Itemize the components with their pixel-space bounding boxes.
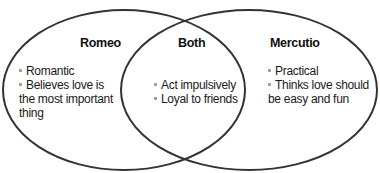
list-item: Thinks love should be easy and fun bbox=[268, 78, 369, 106]
mercutio-list: Practical Thinks love should be easy and… bbox=[268, 64, 369, 106]
list-item: Act impulsively bbox=[154, 78, 238, 92]
romeo-list: Romantic Believes love is the most impor… bbox=[19, 64, 113, 120]
list-item: Loyal to friends bbox=[154, 92, 238, 106]
bullet-icon bbox=[154, 83, 157, 86]
both-title: Both bbox=[178, 36, 205, 50]
bullet-icon bbox=[268, 83, 271, 86]
both-list: Act impulsively Loyal to friends bbox=[154, 78, 238, 106]
bullet-icon bbox=[19, 83, 22, 86]
list-item: Believes love is the most important thin… bbox=[19, 78, 113, 120]
list-item: Romantic bbox=[19, 64, 113, 78]
romeo-title: Romeo bbox=[80, 36, 121, 50]
bullet-icon bbox=[154, 97, 157, 100]
list-item: Practical bbox=[268, 64, 369, 78]
mercutio-title: Mercutio bbox=[270, 36, 320, 50]
bullet-icon bbox=[268, 69, 271, 72]
bullet-icon bbox=[19, 69, 22, 72]
